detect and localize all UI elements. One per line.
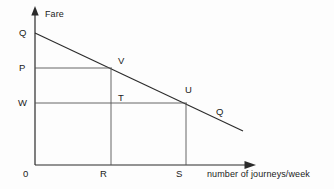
y-axis: [31, 6, 38, 165]
point-label-v: V: [118, 56, 124, 66]
y-axis-label-q: Q: [19, 28, 27, 38]
point-label-t: T: [118, 93, 124, 103]
point-label-u: U: [185, 85, 192, 95]
x-axis-title: number of journeys/week: [207, 170, 310, 179]
x-axis-label-s: S: [176, 169, 182, 179]
y-axis-label-w: W: [18, 98, 27, 108]
x-axis: [35, 161, 256, 169]
demand-curve-label-end: Q: [216, 107, 224, 117]
y-axis-title: Fare: [45, 10, 64, 19]
demand-curve-line: [35, 33, 243, 131]
x-axis-label-r: R: [100, 169, 107, 179]
diagram-canvas: [0, 0, 334, 189]
axis-label-origin: 0: [23, 169, 28, 179]
y-axis-label-p: P: [19, 63, 25, 73]
demand-curve-diagram: Fare number of journeys/week 0 Q P W R S…: [0, 0, 334, 189]
